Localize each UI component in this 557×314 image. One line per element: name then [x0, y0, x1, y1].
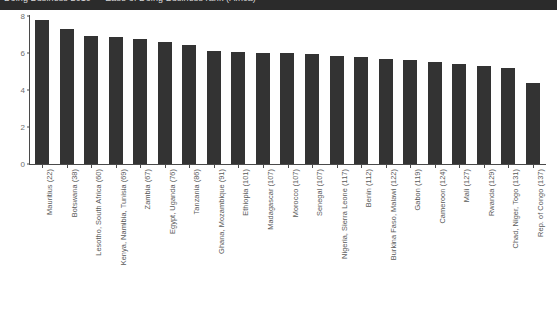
x-axis-label: Senegal (107): [315, 169, 324, 216]
x-axis-label: Mali (127): [462, 169, 471, 202]
x-axis-label: Rwanda (129): [487, 169, 496, 216]
bar[interactable]: [207, 51, 221, 164]
x-axis-label: Rep. of Congo (137): [536, 169, 545, 237]
x-axis-tick-mark: [459, 165, 460, 168]
x-axis-tick-mark: [288, 165, 289, 168]
bar-slot: [349, 16, 374, 164]
bar[interactable]: [452, 64, 466, 164]
x-axis-label: Tanzania (86): [192, 169, 201, 214]
bar[interactable]: [158, 42, 172, 164]
x-axis-tick-mark: [263, 165, 264, 168]
x-axis-label: Ghana, Mozambique (91): [217, 169, 226, 254]
bar[interactable]: [526, 83, 540, 164]
bar[interactable]: [182, 45, 196, 164]
x-axis-tick-mark: [484, 165, 485, 168]
bar-slot: [79, 16, 104, 164]
header-title: Doing Business 2010 — Ease of Doing Busi…: [4, 0, 256, 3]
x-axis-label: Kenya, Namibia, Tunisia (69): [119, 169, 128, 265]
bar-slot: [422, 16, 447, 164]
x-axis-label: Botswana (38): [70, 169, 79, 217]
bar-slot: [300, 16, 325, 164]
x-axis-label: Chad, Niger, Togo (131): [511, 169, 520, 248]
x-axis-label: Morocco (107): [291, 169, 300, 217]
bar[interactable]: [280, 53, 294, 164]
bar[interactable]: [403, 60, 417, 164]
x-axis-tick-mark: [189, 165, 190, 168]
bar[interactable]: [305, 54, 319, 164]
bar-slot: [128, 16, 153, 164]
bar[interactable]: [354, 57, 368, 164]
x-axis-tick-mark: [116, 165, 117, 168]
x-axis-tick-mark: [312, 165, 313, 168]
bar[interactable]: [379, 59, 393, 164]
bar-slot: [30, 16, 55, 164]
plot-area: 02468: [30, 16, 545, 164]
y-axis-tick-label: 6: [21, 49, 25, 58]
x-axis-tick-mark: [410, 165, 411, 168]
bar-slot: [104, 16, 129, 164]
bar[interactable]: [330, 56, 344, 164]
x-axis-label: Gabon (119): [413, 169, 422, 211]
bar[interactable]: [501, 68, 515, 164]
x-axis-label: Cameroon (124): [438, 169, 447, 224]
x-axis-tick-mark: [435, 165, 436, 168]
bar-chart: 02468 Mauritius (22)Botswana (38)Lesotho…: [0, 10, 557, 314]
bar-slot: [496, 16, 521, 164]
header-bar: Doing Business 2010 — Ease of Doing Busi…: [0, 0, 557, 10]
x-axis-label: Nigeria, Sierra Leone (117): [340, 169, 349, 259]
x-axis-label: Ethiopia (101): [241, 169, 250, 216]
bar-slot: [275, 16, 300, 164]
x-axis-tick-mark: [67, 165, 68, 168]
x-axis-label: Madagascar (107): [266, 169, 275, 230]
bar[interactable]: [109, 37, 123, 164]
x-axis-tick-mark: [533, 165, 534, 168]
bar-slot: [520, 16, 545, 164]
x-axis-tick-mark: [42, 165, 43, 168]
bar-slot: [447, 16, 472, 164]
x-axis-tick-mark: [386, 165, 387, 168]
y-axis-tick-label: 8: [21, 12, 25, 21]
x-axis-tick-mark: [165, 165, 166, 168]
x-axis-tick-mark: [508, 165, 509, 168]
bar[interactable]: [256, 53, 270, 164]
x-axis-label: Zambia (67): [143, 169, 152, 209]
bar-slot: [324, 16, 349, 164]
x-axis-label: Lesotho, South Africa (60): [94, 169, 103, 256]
x-axis-tick-mark: [337, 165, 338, 168]
bar-slot: [251, 16, 276, 164]
x-axis-label: Benin (112): [364, 169, 373, 207]
bar[interactable]: [60, 29, 74, 164]
bar[interactable]: [133, 39, 147, 164]
bar[interactable]: [477, 66, 491, 164]
bar-slot: [55, 16, 80, 164]
bar-slot: [398, 16, 423, 164]
bar[interactable]: [428, 62, 442, 164]
bar[interactable]: [35, 20, 49, 164]
bar-slot: [226, 16, 251, 164]
bar[interactable]: [84, 36, 98, 164]
bar-slot: [373, 16, 398, 164]
bar-slot: [471, 16, 496, 164]
x-axis-tick-mark: [91, 165, 92, 168]
y-axis-tick-label: 4: [21, 86, 25, 95]
x-axis-label: Mauritius (22): [45, 169, 54, 215]
bar-slot: [153, 16, 178, 164]
y-axis-tick-label: 0: [21, 160, 25, 169]
x-axis-tick-mark: [140, 165, 141, 168]
bar[interactable]: [231, 52, 245, 164]
y-axis-tick-label: 2: [21, 123, 25, 132]
bar-slot: [202, 16, 227, 164]
x-axis-tick-mark: [361, 165, 362, 168]
x-axis-tick-mark: [238, 165, 239, 168]
x-axis-label: Burkina Faso, Malawi (122): [389, 169, 398, 260]
bar-slot: [177, 16, 202, 164]
x-axis-label: Egypt, Uganda (76): [168, 169, 177, 234]
x-axis-tick-mark: [214, 165, 215, 168]
